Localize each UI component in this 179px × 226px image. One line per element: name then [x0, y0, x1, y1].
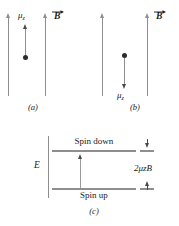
field-line-shaft-b-2 — [147, 18, 148, 96]
moment-label-b: μz — [117, 90, 124, 101]
moment-subscript-a: z — [23, 15, 25, 21]
energy-axis-label: E — [34, 160, 40, 170]
caption-a: (a) — [0, 102, 66, 112]
field-label-a: B — [54, 11, 60, 21]
moment-arrowhead-b — [122, 84, 126, 89]
splitting-symbol: 2μ — [134, 163, 143, 173]
field-line-shaft-b-1 — [102, 18, 103, 96]
moment-label-a: μz — [18, 10, 25, 21]
panel-b: μz B (b) — [90, 0, 179, 122]
energy-level-upper — [52, 150, 136, 152]
spin-down-label: Spin down — [52, 136, 136, 146]
field-label-b: B — [156, 11, 162, 21]
panel-a: μz B (a) — [0, 0, 90, 122]
spin-up-label: Spin up — [52, 190, 136, 200]
caption-b: (b) — [102, 102, 168, 112]
dipole-dot-a — [23, 55, 28, 60]
field-line-shaft-a-2 — [45, 18, 46, 96]
moment-subscript-b: z — [122, 95, 124, 101]
splitting-energy-label: 2μzB — [134, 163, 152, 173]
caption-c: (c) — [52, 206, 136, 216]
field-line-shaft-a-1 — [8, 18, 9, 96]
panel-c: E Spin down Spin up 2μzB (c) — [0, 130, 179, 226]
energy-axis-line — [48, 136, 49, 198]
splitting-suffix: B — [147, 163, 153, 173]
splitting-tick-top — [140, 150, 154, 152]
transition-shaft — [80, 159, 81, 188]
splitting-stem-top — [147, 139, 148, 144]
splitting-stem-bottom — [147, 186, 148, 190]
moment-shaft-b — [124, 58, 125, 85]
